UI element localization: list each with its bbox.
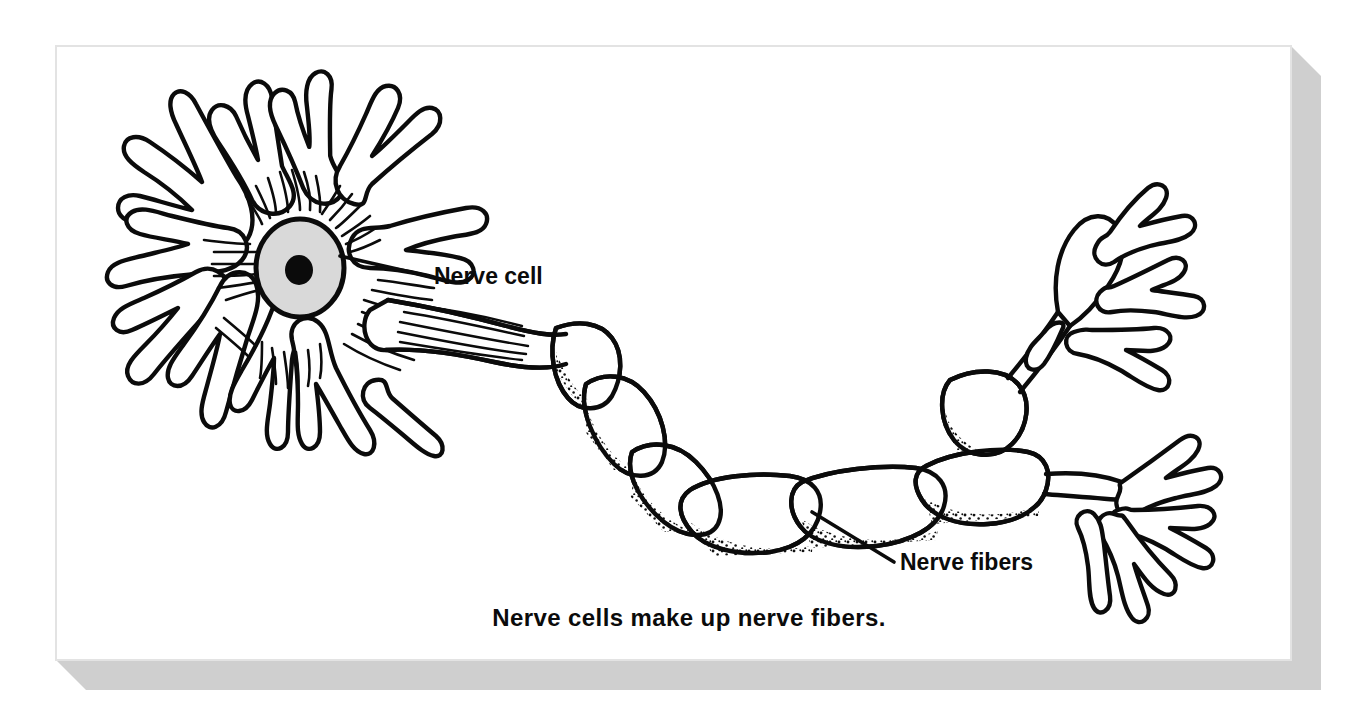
figure-caption: Nerve cells make up nerve fibers.: [492, 604, 885, 631]
callout-label-nerve-cell: Nerve cell: [434, 263, 543, 289]
callout-label-nerve-fibers: Nerve fibers: [900, 549, 1033, 575]
nerve-cell-diagram: Nerve cell Nerve fibers Nerve cells make…: [0, 0, 1367, 712]
nucleolus: [285, 255, 313, 285]
figure-stage: Nerve cell Nerve fibers Nerve cells make…: [0, 0, 1367, 712]
